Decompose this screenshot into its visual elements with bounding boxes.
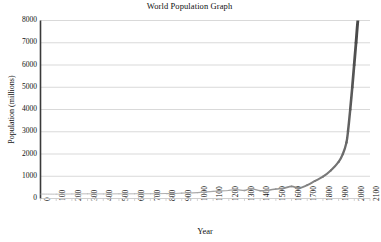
series-segment <box>339 154 343 162</box>
series-segment <box>213 190 229 191</box>
series-segment <box>307 181 315 185</box>
series-segment <box>229 190 237 191</box>
series-segment <box>284 186 292 188</box>
series-segment <box>244 189 250 191</box>
data-series-line <box>41 3 360 194</box>
series-segment <box>343 142 347 154</box>
series-segment <box>251 189 260 191</box>
series-segment <box>299 185 307 188</box>
series-segment <box>323 170 331 176</box>
series-segment <box>268 189 276 190</box>
series-segment <box>350 87 352 109</box>
series-segment <box>352 65 354 87</box>
series-segment <box>260 190 268 191</box>
series-segment <box>346 131 348 142</box>
series-segment <box>292 186 300 188</box>
series-segment <box>348 110 350 132</box>
series-segment <box>354 43 356 65</box>
series-segment <box>182 193 198 194</box>
series-segment <box>276 188 284 189</box>
series-projection-segment <box>358 3 360 18</box>
series-segment <box>315 177 323 181</box>
series-segment <box>237 190 245 191</box>
series-segment <box>197 191 213 192</box>
gridlines <box>41 21 371 199</box>
series-segment <box>356 18 358 42</box>
x-axis-title: Year <box>40 226 370 236</box>
series-segment <box>331 162 339 171</box>
